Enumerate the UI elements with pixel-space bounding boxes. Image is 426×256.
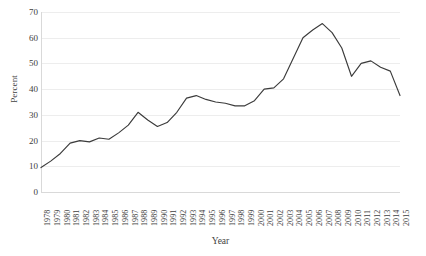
x-tick-label: 2014	[393, 210, 401, 226]
x-axis-tick-labels: 1978197919801981198219831984198519861987…	[41, 194, 400, 234]
x-tick-label: 1997	[229, 210, 237, 226]
y-tick-label: 30	[12, 110, 38, 119]
x-tick-label: 1978	[44, 210, 52, 226]
x-tick-label: 1991	[170, 210, 178, 226]
y-tick-label: 10	[12, 162, 38, 171]
x-tick-label: 2005	[306, 210, 314, 226]
data-series-line	[41, 12, 400, 192]
x-tick-label: 1989	[151, 210, 159, 226]
x-tick-label: 1981	[73, 210, 81, 226]
y-tick-label: 0	[12, 188, 38, 197]
x-tick-label: 2001	[267, 210, 275, 226]
line-chart-figure: Percent 010203040506070 1978197919801981…	[0, 0, 426, 256]
x-tick-label: 1992	[180, 210, 188, 226]
plot-area	[41, 12, 400, 192]
x-tick-label: 1990	[161, 210, 169, 226]
y-tick-label: 20	[12, 136, 38, 145]
x-tick-label: 1980	[64, 210, 72, 226]
x-tick-label: 1987	[132, 210, 140, 226]
x-tick-label: 2013	[384, 210, 392, 226]
x-tick-label: 2009	[345, 210, 353, 226]
x-tick-label: 2002	[277, 210, 285, 226]
x-tick-label: 2006	[316, 210, 324, 226]
x-tick-label: 1999	[248, 210, 256, 226]
x-tick-label: 1984	[102, 210, 110, 226]
x-tick-label: 2010	[355, 210, 363, 226]
x-tick-label: 2000	[258, 210, 266, 226]
x-tick-label: 1993	[190, 210, 198, 226]
x-tick-label: 1994	[199, 210, 207, 226]
x-tick-label: 2011	[364, 210, 372, 226]
x-tick-label: 1985	[112, 210, 120, 226]
x-tick-label: 1988	[141, 210, 149, 226]
x-tick-label: 2007	[326, 210, 334, 226]
y-tick-label: 70	[12, 8, 38, 17]
x-tick-label: 1986	[122, 210, 130, 226]
y-axis-tick-labels: 010203040506070	[12, 12, 38, 192]
x-tick-label: 1983	[93, 210, 101, 226]
x-tick-label: 2012	[374, 210, 382, 226]
x-tick-label: 1979	[54, 210, 62, 226]
x-tick-label: 1996	[219, 210, 227, 226]
y-tick-label: 60	[12, 33, 38, 42]
x-tick-label: 2015	[403, 210, 411, 226]
x-tick-label: 2003	[287, 210, 295, 226]
x-axis-title: Year	[41, 236, 400, 246]
series-percent	[41, 24, 400, 168]
y-tick-label: 40	[12, 85, 38, 94]
y-tick-label: 50	[12, 59, 38, 68]
x-tick-label: 1998	[238, 210, 246, 226]
x-tick-label: 1995	[209, 210, 217, 226]
x-tick-label: 1982	[83, 210, 91, 226]
x-tick-label: 2008	[335, 210, 343, 226]
x-tick-label: 2004	[296, 210, 304, 226]
